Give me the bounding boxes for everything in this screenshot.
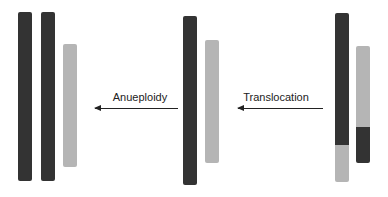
- segment-dark: [356, 127, 370, 163]
- chromosome-dark: [183, 16, 197, 185]
- chromosome-translocated-light: [356, 46, 370, 163]
- chromosome-translocated-dark: [335, 13, 349, 182]
- chromosome-light: [205, 40, 219, 163]
- segment-light: [356, 46, 370, 127]
- translocation-label: Translocation: [243, 91, 309, 103]
- anueploidy-label: Anueploidy: [113, 91, 167, 103]
- chromosome-light: [63, 44, 77, 167]
- arrow-left-icon: [238, 108, 323, 109]
- arrow-left-icon: [95, 108, 178, 109]
- segment-dark: [335, 13, 349, 145]
- segment-light: [335, 145, 349, 182]
- chromosome-dark-1: [18, 12, 32, 181]
- chromosome-dark-2: [41, 12, 55, 181]
